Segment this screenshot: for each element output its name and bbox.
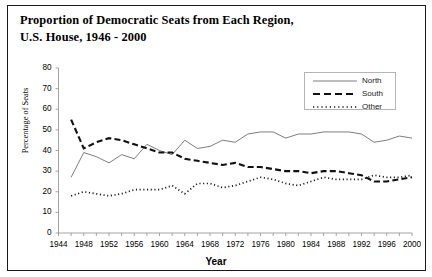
y-tick-label: 40: [30, 147, 52, 155]
series-line-other: [71, 175, 412, 196]
legend-swatch-other: [311, 101, 359, 112]
y-tick-label: 20: [30, 188, 52, 196]
series-line-north: [71, 132, 412, 177]
plot-svg: [0, 0, 432, 277]
x-tick-label: 2000: [397, 241, 427, 249]
y-tick-label: 70: [30, 85, 52, 93]
legend-item-north: North: [305, 75, 395, 87]
y-tick-label: 80: [30, 64, 52, 72]
y-tick-label: 50: [30, 126, 52, 134]
legend-swatch-north: [311, 75, 359, 86]
legend-label-south: South: [362, 88, 383, 99]
legend-swatch-south: [311, 88, 359, 99]
legend-item-other: Other: [305, 101, 395, 113]
y-tick-label: 30: [30, 167, 52, 175]
y-tick-label: 10: [30, 208, 52, 216]
legend: North South Other: [304, 72, 396, 110]
legend-label-other: Other: [362, 101, 382, 112]
y-tick-label: 60: [30, 105, 52, 113]
plot-area: [0, 0, 432, 277]
y-tick-label: 0: [30, 229, 52, 237]
legend-label-north: North: [362, 75, 382, 86]
series-line-south: [71, 120, 412, 182]
x-axis-title: Year: [0, 256, 432, 267]
y-axis-title: Percentage of Seats: [21, 66, 30, 176]
legend-item-south: South: [305, 88, 395, 100]
chart-figure: Proportion of Democratic Seats from Each…: [0, 0, 432, 277]
